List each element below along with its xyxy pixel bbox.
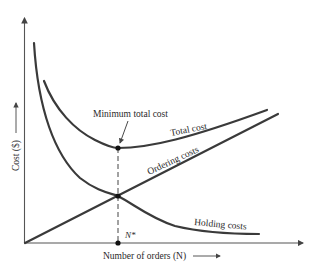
y-axis-label: Cost ($) — [11, 103, 22, 171]
eoq-cost-diagram: Cost ($) Minimum total cost Total cost O… — [0, 0, 317, 271]
n-star-label: N* — [124, 230, 136, 240]
minimum-total-cost-pointer — [120, 121, 128, 143]
x-axis-label: Number of orders (N) — [103, 251, 220, 262]
svg-text:Number of orders (N): Number of orders (N) — [103, 251, 186, 262]
holding-costs-curve — [34, 43, 259, 234]
holding-costs-label: Holding costs — [194, 217, 247, 232]
n-star-point — [115, 240, 120, 245]
intersection-point — [115, 193, 120, 198]
ordering-costs-label: Ordering costs — [146, 144, 201, 177]
minimum-total-cost-point — [115, 145, 120, 150]
svg-text:Cost ($): Cost ($) — [11, 140, 22, 171]
minimum-total-cost-label: Minimum total cost — [93, 109, 168, 119]
